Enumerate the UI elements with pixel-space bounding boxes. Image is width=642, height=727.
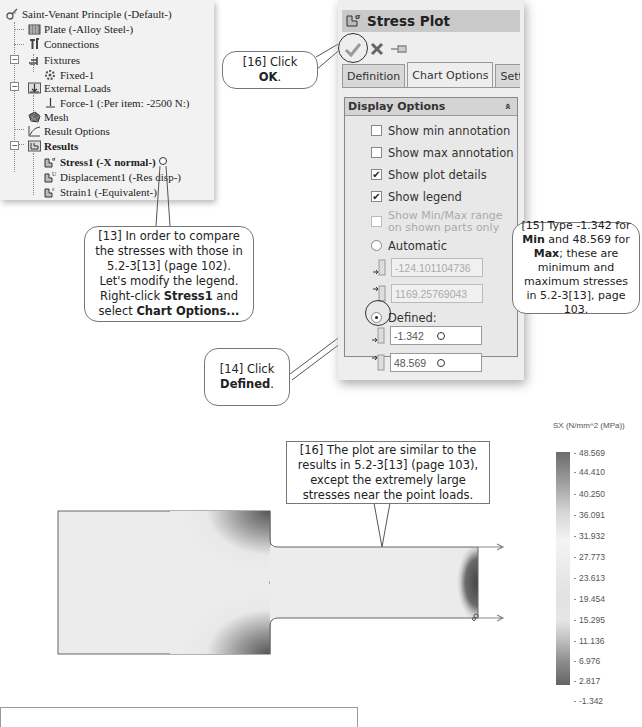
legend-label: 44.410 <box>574 467 605 477</box>
legend-label: 19.454 <box>574 594 605 604</box>
legend-label: 27.773 <box>574 552 605 562</box>
legend-title: SX (N/mm^2 (MPa)) <box>553 421 625 430</box>
legend-label: 2.817 <box>574 676 600 686</box>
legend-label: -1.342 <box>574 696 603 706</box>
legend-label: 6.976 <box>574 656 600 666</box>
legend-label: 11.136 <box>574 636 604 646</box>
legend-label: 31.932 <box>574 531 605 541</box>
legend-color-bar <box>556 452 570 685</box>
legend-label: 48.569 <box>574 448 605 458</box>
callout-step-16-plot: [16] The plot are similar to the results… <box>286 441 490 504</box>
legend-label: 23.613 <box>574 573 605 583</box>
next-section-box <box>0 707 358 727</box>
legend-label: 15.295 <box>574 615 605 625</box>
legend-label: 40.250 <box>574 489 605 499</box>
legend-label: 36.091 <box>574 510 605 520</box>
